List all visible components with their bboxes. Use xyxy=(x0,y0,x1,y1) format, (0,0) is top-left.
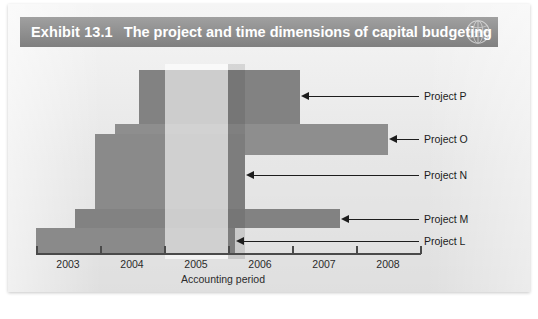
callout-arrow-project-m xyxy=(341,215,349,223)
callout-label-project-p: Project P xyxy=(424,90,467,102)
x-tick-label-2004: 2004 xyxy=(112,258,152,270)
callout-arrow-project-l xyxy=(236,237,244,245)
callout-leader-project-p xyxy=(309,96,419,97)
callout-arrow-project-n xyxy=(246,171,254,179)
x-tick-label-2006: 2006 xyxy=(240,258,280,270)
x-tick-label-2005: 2005 xyxy=(176,258,216,270)
callout-label-project-o: Project O xyxy=(424,133,468,145)
exhibit-number: Exhibit 13.1 xyxy=(31,24,113,40)
x-tick-label-2008: 2008 xyxy=(368,258,408,270)
callout-arrow-project-p xyxy=(301,92,309,100)
x-tick-label-2007: 2007 xyxy=(304,258,344,270)
x-axis-tick xyxy=(228,246,230,254)
x-axis-tick xyxy=(292,246,294,254)
exhibit-page-panel: Exhibit 13.1 The project and time dimens… xyxy=(8,4,530,292)
period-band-2005 xyxy=(165,64,228,259)
x-axis-tick xyxy=(100,246,102,254)
callout-leader-project-m xyxy=(349,219,419,220)
callout-label-project-l: Project L xyxy=(424,235,465,247)
x-axis-tick xyxy=(36,246,38,254)
callout-leader-project-o xyxy=(397,139,419,140)
x-axis-tick xyxy=(420,246,422,254)
callout-label-project-m: Project M xyxy=(424,213,468,225)
exhibit-title: The project and time dimensions of capit… xyxy=(124,24,492,40)
period-band-2006 xyxy=(228,64,245,259)
callout-leader-project-l xyxy=(244,241,419,242)
x-axis-tick xyxy=(164,246,166,254)
x-axis-title: Accounting period xyxy=(8,273,438,285)
callout-label-project-n: Project N xyxy=(424,169,467,181)
x-tick-label-2003: 2003 xyxy=(48,258,88,270)
x-axis-tick xyxy=(356,246,358,254)
globe-icon xyxy=(464,18,492,46)
callout-leader-project-n xyxy=(254,175,419,176)
callout-arrow-project-o xyxy=(389,135,397,143)
capital-budgeting-gantt-chart: 2003 2004 2005 2006 2007 2008 Accounting… xyxy=(8,4,530,292)
